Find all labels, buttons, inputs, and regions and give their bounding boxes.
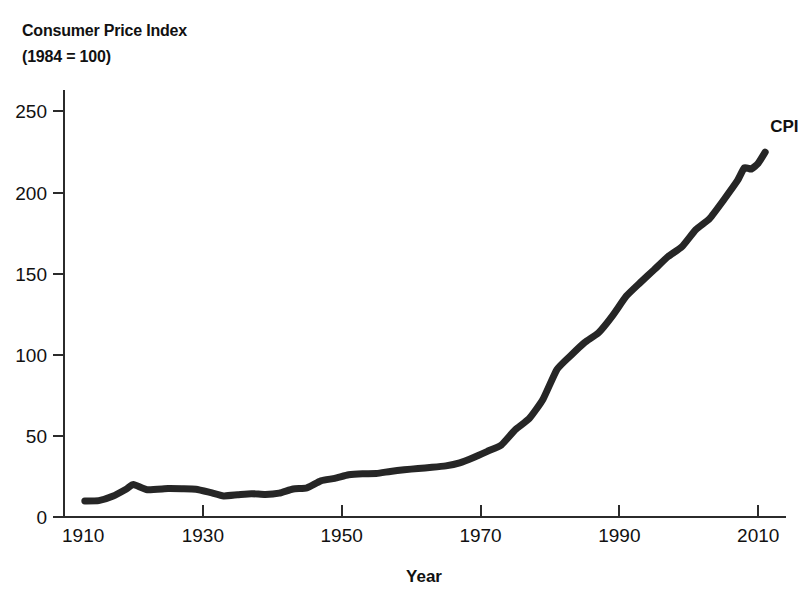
y-tick-label: 200 — [15, 183, 47, 204]
x-axis-tick-marks — [203, 505, 758, 517]
x-tick-label: 1910 — [62, 525, 104, 546]
cpi-series-label: CPI — [770, 117, 798, 136]
cpi-line-chart: Consumer Price Index (1984 = 100) 050100… — [0, 0, 811, 598]
cpi-chart-figure: Consumer Price Index (1984 = 100) 050100… — [0, 0, 811, 598]
chart-title-line1: Consumer Price Index — [22, 22, 187, 39]
y-axis-tick-marks — [53, 111, 64, 517]
x-tick-label: 1950 — [321, 525, 363, 546]
x-tick-label: 1970 — [459, 525, 501, 546]
y-tick-label: 150 — [15, 264, 47, 285]
x-tick-label: 2010 — [737, 525, 779, 546]
y-axis-tick-labels: 050100150200250 — [15, 101, 47, 528]
x-axis-tick-labels: 191019301950197019902010 — [62, 525, 779, 546]
y-tick-label: 250 — [15, 101, 47, 122]
chart-title-line2: (1984 = 100) — [22, 48, 111, 65]
y-tick-label: 100 — [15, 345, 47, 366]
x-tick-label: 1930 — [182, 525, 224, 546]
x-tick-label: 1990 — [598, 525, 640, 546]
x-axis-title: Year — [406, 567, 442, 586]
y-tick-label: 0 — [36, 507, 47, 528]
cpi-series-line — [85, 152, 765, 501]
y-tick-label: 50 — [26, 426, 47, 447]
